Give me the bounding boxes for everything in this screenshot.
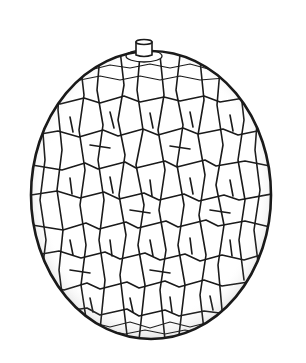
melon-illustration bbox=[0, 0, 306, 363]
illustration-canvas bbox=[0, 0, 306, 363]
edge-shading bbox=[31, 51, 271, 339]
stem bbox=[136, 40, 152, 57]
